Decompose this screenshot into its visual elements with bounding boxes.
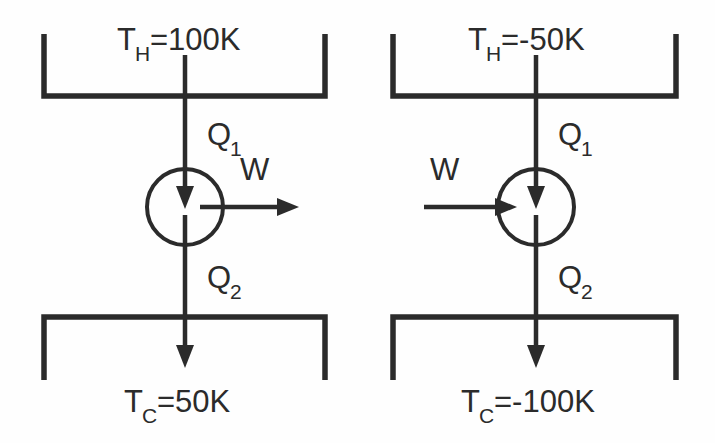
heat-in-label-right: Q 1: [558, 117, 593, 160]
hot-reservoir-label-left-main: T: [117, 22, 136, 57]
cold-reservoir-label-left-value: =50K: [157, 384, 231, 419]
diagram-canvas: T H =100K Q 1 W Q 2 T C =50K: [0, 0, 715, 443]
heat-out-label-right-main: Q: [558, 260, 582, 295]
panel-left: T H =100K Q 1 W Q 2 T C =50K: [44, 22, 325, 427]
heat-in-label-left: Q 1: [207, 117, 242, 160]
heat-out-label-right-sub: 2: [581, 280, 593, 303]
work-label-left: W: [240, 152, 270, 187]
panel-right: T H =-50K Q 1 W Q 2 T C =-100K: [393, 22, 676, 427]
cold-reservoir-label-right: T C =-100K: [461, 384, 595, 427]
heat-out-label-left-main: Q: [207, 260, 231, 295]
cold-reservoir-label-right-sub: C: [479, 404, 494, 427]
heat-out-arrowhead-left: [176, 345, 194, 368]
hot-reservoir-label-right-value: =-50K: [501, 22, 585, 57]
hot-reservoir-label-left: T H =100K: [117, 22, 241, 65]
cold-reservoir-label-left-main: T: [124, 384, 143, 419]
hot-reservoir-label-left-value: =100K: [150, 22, 241, 57]
heat-in-arrowhead-left: [176, 186, 194, 209]
heat-out-arrowhead-right: [527, 345, 545, 368]
heat-in-label-right-main: Q: [558, 117, 582, 152]
work-arrowhead-right: [495, 198, 517, 216]
work-label-right: W: [430, 152, 460, 187]
cold-reservoir-label-left: T C =50K: [124, 384, 231, 427]
heat-in-arrowhead-right: [527, 186, 545, 209]
thermodynamics-figure: T H =100K Q 1 W Q 2 T C =50K: [0, 0, 715, 443]
hot-reservoir-label-right: T H =-50K: [468, 22, 585, 65]
cold-reservoir-label-right-value: =-100K: [494, 384, 595, 419]
heat-in-label-right-sub: 1: [581, 137, 593, 160]
hot-reservoir-label-left-sub: H: [135, 42, 150, 65]
heat-in-label-left-main: Q: [207, 117, 231, 152]
heat-out-label-right: Q 2: [558, 260, 593, 303]
heat-out-label-left-sub: 2: [230, 280, 242, 303]
cold-reservoir-label-left-sub: C: [142, 404, 157, 427]
hot-reservoir-label-right-sub: H: [486, 42, 501, 65]
work-arrowhead-left: [277, 198, 299, 216]
hot-reservoir-label-right-main: T: [468, 22, 487, 57]
heat-out-label-left: Q 2: [207, 260, 242, 303]
cold-reservoir-label-right-main: T: [461, 384, 480, 419]
